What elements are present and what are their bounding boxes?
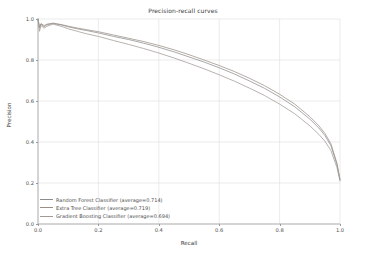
legend-color-swatch: [40, 207, 53, 208]
grid-lines: [38, 19, 340, 224]
series-line-2: [38, 19, 340, 181]
series-line-0: [38, 19, 340, 180]
y-tick-label: 0.4: [8, 139, 34, 145]
x-tick-label: 0.8: [275, 227, 283, 233]
legend-color-swatch: [40, 216, 53, 217]
legend-label: Extra Tree Classifier (average=0.719): [56, 205, 150, 211]
y-tick-mark: [36, 224, 38, 225]
legend-label: Random Forest Classifier (average=0.714): [56, 197, 163, 203]
legend-item[interactable]: Extra Tree Classifier (average=0.719): [40, 204, 170, 211]
plot-svg: [38, 19, 340, 224]
series-line-1: [38, 19, 340, 179]
y-tick-label: 0.8: [8, 57, 34, 63]
legend-item[interactable]: Gradient Boosting Classifier (average=0.…: [40, 213, 170, 220]
y-axis-label: Precision: [6, 95, 12, 135]
y-tick-label: 0.2: [8, 180, 34, 186]
y-tick-label: 0.0: [8, 221, 34, 227]
legend: Random Forest Classifier (average=0.714)…: [40, 196, 170, 220]
x-tick-mark: [340, 224, 341, 226]
y-tick-label: 1.0: [8, 16, 34, 22]
plot-area: [38, 19, 340, 224]
chart-figure: Precision-recall curves 0.00.20.40.60.81…: [0, 0, 366, 257]
legend-label: Gradient Boosting Classifier (average=0.…: [56, 213, 170, 219]
legend-item[interactable]: Random Forest Classifier (average=0.714): [40, 196, 170, 203]
chart-title: Precision-recall curves: [0, 7, 366, 14]
x-tick-label: 0.0: [34, 227, 42, 233]
x-tick-label: 0.4: [155, 227, 163, 233]
x-tick-label: 0.2: [94, 227, 102, 233]
x-tick-label: 0.6: [215, 227, 223, 233]
x-axis-label: Recall: [38, 240, 340, 246]
axis-spines: [38, 19, 340, 224]
curve-lines: [38, 19, 340, 181]
legend-color-swatch: [40, 199, 53, 200]
x-tick-label: 1.0: [336, 227, 344, 233]
